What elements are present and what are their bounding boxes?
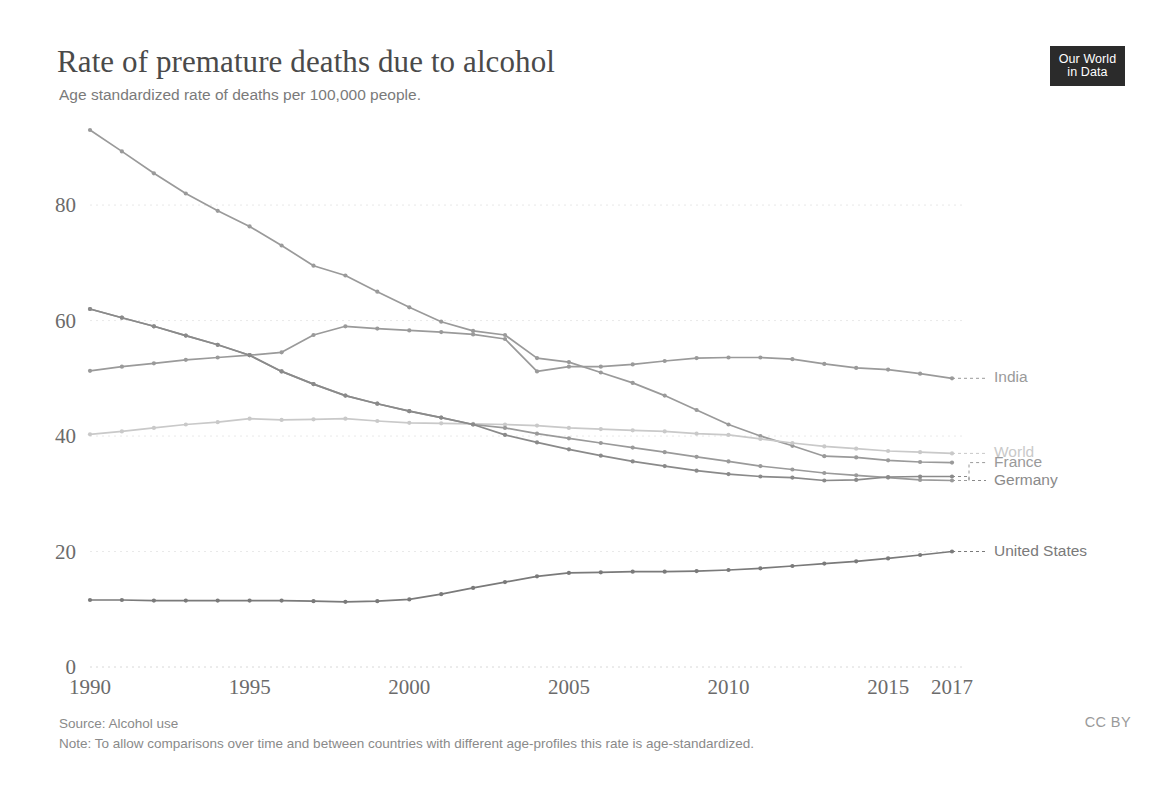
data-point-india[interactable]	[88, 369, 92, 373]
data-point-france[interactable]	[631, 446, 635, 450]
data-point-france[interactable]	[726, 459, 730, 463]
data-point-germany[interactable]	[854, 478, 858, 482]
data-point-united-states[interactable]	[343, 600, 347, 604]
data-point-india[interactable]	[311, 333, 315, 337]
data-point-russia[interactable]	[663, 394, 667, 398]
data-point-india[interactable]	[567, 365, 571, 369]
data-point-russia[interactable]	[599, 370, 603, 374]
series-label-united-states[interactable]: United States	[994, 542, 1087, 559]
data-point-united-states[interactable]	[535, 574, 539, 578]
data-point-united-states[interactable]	[503, 580, 507, 584]
data-point-germany[interactable]	[599, 454, 603, 458]
data-point-united-states[interactable]	[567, 571, 571, 575]
data-point-russia[interactable]	[375, 290, 379, 294]
data-point-india[interactable]	[854, 366, 858, 370]
data-point-united-states[interactable]	[695, 569, 699, 573]
series-line-france[interactable]	[90, 309, 952, 481]
series-line-india[interactable]	[90, 326, 952, 378]
data-point-russia[interactable]	[567, 360, 571, 364]
data-point-germany[interactable]	[248, 353, 252, 357]
data-point-germany[interactable]	[407, 409, 411, 413]
data-point-united-states[interactable]	[88, 598, 92, 602]
data-point-russia[interactable]	[631, 381, 635, 385]
data-point-germany[interactable]	[184, 334, 188, 338]
data-point-russia[interactable]	[120, 149, 124, 153]
data-point-united-states[interactable]	[822, 562, 826, 566]
data-point-world[interactable]	[631, 428, 635, 432]
data-point-france[interactable]	[599, 441, 603, 445]
series-label-india[interactable]: India	[994, 368, 1028, 385]
data-point-france[interactable]	[790, 467, 794, 471]
data-point-germany[interactable]	[886, 475, 890, 479]
data-point-india[interactable]	[822, 362, 826, 366]
data-point-russia[interactable]	[695, 408, 699, 412]
data-point-russia[interactable]	[216, 209, 220, 213]
data-point-india[interactable]	[663, 359, 667, 363]
data-point-russia[interactable]	[407, 305, 411, 309]
data-point-united-states[interactable]	[758, 566, 762, 570]
data-point-world[interactable]	[88, 432, 92, 436]
data-point-united-states[interactable]	[726, 568, 730, 572]
data-point-russia[interactable]	[950, 461, 954, 465]
data-point-russia[interactable]	[886, 458, 890, 462]
data-point-united-states[interactable]	[854, 559, 858, 563]
data-point-india[interactable]	[184, 358, 188, 362]
data-point-world[interactable]	[248, 417, 252, 421]
data-point-india[interactable]	[503, 337, 507, 341]
data-point-world[interactable]	[216, 420, 220, 424]
data-point-france[interactable]	[695, 455, 699, 459]
data-point-germany[interactable]	[822, 478, 826, 482]
data-point-united-states[interactable]	[631, 570, 635, 574]
data-point-france[interactable]	[822, 471, 826, 475]
data-point-germany[interactable]	[663, 464, 667, 468]
data-point-world[interactable]	[726, 433, 730, 437]
data-point-united-states[interactable]	[120, 598, 124, 602]
data-point-united-states[interactable]	[471, 586, 475, 590]
data-point-world[interactable]	[663, 429, 667, 433]
data-point-germany[interactable]	[790, 476, 794, 480]
data-point-russia[interactable]	[343, 273, 347, 277]
data-point-world[interactable]	[886, 449, 890, 453]
data-point-india[interactable]	[790, 357, 794, 361]
series-label-germany[interactable]: Germany	[994, 471, 1058, 488]
data-point-russia[interactable]	[854, 455, 858, 459]
series-line-russia[interactable]	[90, 130, 952, 463]
data-point-united-states[interactable]	[790, 564, 794, 568]
data-point-russia[interactable]	[152, 171, 156, 175]
data-point-france[interactable]	[758, 464, 762, 468]
data-point-france[interactable]	[854, 473, 858, 477]
data-point-world[interactable]	[311, 417, 315, 421]
data-point-russia[interactable]	[88, 128, 92, 132]
data-point-germany[interactable]	[631, 459, 635, 463]
data-point-world[interactable]	[184, 422, 188, 426]
data-point-world[interactable]	[599, 427, 603, 431]
data-point-germany[interactable]	[88, 307, 92, 311]
data-point-world[interactable]	[280, 418, 284, 422]
data-point-world[interactable]	[854, 447, 858, 451]
data-point-india[interactable]	[343, 324, 347, 328]
data-point-india[interactable]	[152, 361, 156, 365]
data-point-germany[interactable]	[503, 433, 507, 437]
data-point-world[interactable]	[407, 421, 411, 425]
data-point-india[interactable]	[631, 362, 635, 366]
data-point-india[interactable]	[216, 355, 220, 359]
data-point-russia[interactable]	[503, 333, 507, 337]
data-point-united-states[interactable]	[439, 592, 443, 596]
data-point-united-states[interactable]	[280, 599, 284, 603]
data-point-world[interactable]	[822, 444, 826, 448]
data-point-india[interactable]	[120, 365, 124, 369]
data-point-germany[interactable]	[918, 474, 922, 478]
data-point-united-states[interactable]	[918, 553, 922, 557]
data-point-germany[interactable]	[216, 343, 220, 347]
data-point-france[interactable]	[567, 436, 571, 440]
data-point-india[interactable]	[535, 369, 539, 373]
data-point-germany[interactable]	[375, 402, 379, 406]
line-chart-svg[interactable]: 0204060801990199520002005201020152017Ind…	[0, 0, 1161, 796]
data-point-germany[interactable]	[567, 447, 571, 451]
data-point-world[interactable]	[343, 417, 347, 421]
data-point-united-states[interactable]	[886, 556, 890, 560]
data-point-germany[interactable]	[311, 382, 315, 386]
data-point-united-states[interactable]	[311, 599, 315, 603]
data-point-world[interactable]	[790, 441, 794, 445]
data-point-united-states[interactable]	[152, 599, 156, 603]
